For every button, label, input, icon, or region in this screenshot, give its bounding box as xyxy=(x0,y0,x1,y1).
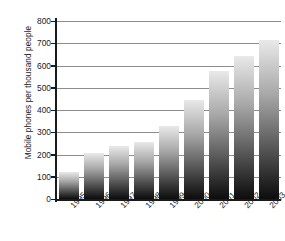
bar-chart: Mobile phones per thousand people 800700… xyxy=(0,0,285,241)
y-axis-tick xyxy=(51,132,56,134)
y-axis-tick-label: 300 xyxy=(37,127,51,137)
y-axis-tick xyxy=(51,87,56,89)
bar-2002 xyxy=(234,56,254,200)
y-axis-tick xyxy=(51,176,56,178)
y-axis-tick xyxy=(51,21,56,23)
bar-series xyxy=(57,21,281,199)
x-axis-tick-labels: 199519961997199819992000200120022003 xyxy=(57,201,281,241)
y-axis-tick xyxy=(51,199,56,201)
bar-1996 xyxy=(84,153,104,199)
y-axis-tick-label: 500 xyxy=(37,83,51,93)
y-axis-tick-labels: 8007006005004003002001000 xyxy=(22,21,51,199)
y-axis-tick xyxy=(51,65,56,67)
y-axis-tick xyxy=(51,43,56,45)
y-axis-tick-label: 0 xyxy=(46,194,51,204)
bar-2001 xyxy=(209,71,229,199)
bar-2003 xyxy=(259,40,279,199)
y-axis-tick-label: 400 xyxy=(37,105,51,115)
bar-2000 xyxy=(184,100,204,199)
y-axis-tick-label: 600 xyxy=(37,61,51,71)
y-axis-tick xyxy=(51,154,56,156)
y-axis-tick-label: 800 xyxy=(37,16,51,26)
plot-area xyxy=(57,21,281,199)
y-axis-tick xyxy=(51,110,56,112)
bar-1997 xyxy=(109,146,129,199)
y-axis-tick-label: 100 xyxy=(37,172,51,182)
bar-1998 xyxy=(134,142,154,199)
y-axis-tick-label: 200 xyxy=(37,150,51,160)
bar-1999 xyxy=(159,126,179,199)
y-axis-tick-label: 700 xyxy=(37,38,51,48)
